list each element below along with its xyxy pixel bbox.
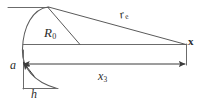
radius-label: R0 — [44, 26, 56, 41]
height-label: h — [31, 88, 37, 100]
range-line — [49, 7, 187, 45]
aperture-label: a — [10, 59, 16, 71]
geometry-figure: R0 re x x3 a h — [0, 0, 202, 101]
a-dimension-arrow — [24, 63, 35, 77]
field-point-label: x — [188, 36, 194, 47]
axial-distance-label: x3 — [98, 70, 107, 83]
arc-surface-curve — [22, 7, 57, 89]
figure-canvas — [0, 0, 202, 101]
